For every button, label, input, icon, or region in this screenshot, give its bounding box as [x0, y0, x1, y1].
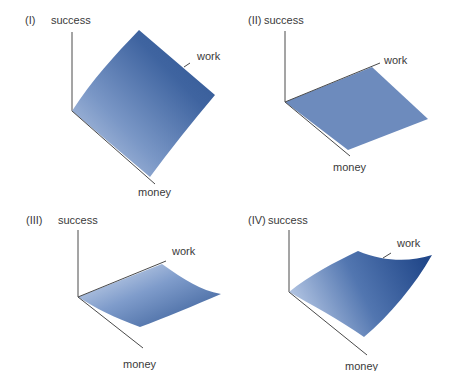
panel-i: (I) success work money — [25, 14, 221, 198]
surface — [78, 264, 221, 327]
success-axis-label: success — [264, 14, 304, 26]
work-axis-tick — [383, 253, 391, 258]
money-axis-label: money — [123, 358, 157, 370]
success-axis-label: success — [58, 214, 98, 226]
panel-label: (I) — [25, 14, 35, 26]
money-axis-label: money — [138, 186, 172, 198]
surface — [289, 251, 432, 337]
work-axis-label: work — [383, 54, 408, 66]
surface — [72, 30, 215, 177]
money-axis-label: money — [333, 161, 367, 173]
panel-iv: (IV) success work money — [248, 214, 432, 371]
work-axis-label: work — [171, 245, 196, 257]
panel-label: (II) — [248, 14, 261, 26]
surface — [285, 67, 428, 150]
diagram-canvas: (I) success work money (II) success work… — [0, 0, 455, 371]
panel-iii: (III) success work money — [26, 214, 221, 370]
panel-label: (III) — [26, 214, 43, 226]
work-axis-label: work — [396, 237, 421, 249]
work-axis-tick — [184, 63, 190, 67]
success-axis-label: success — [268, 214, 308, 226]
money-axis-label: money — [345, 360, 379, 371]
panel-ii: (II) success work money — [248, 14, 428, 173]
panel-label: (IV) — [248, 214, 266, 226]
success-axis-label: success — [51, 14, 91, 26]
work-axis-label: work — [196, 50, 221, 62]
